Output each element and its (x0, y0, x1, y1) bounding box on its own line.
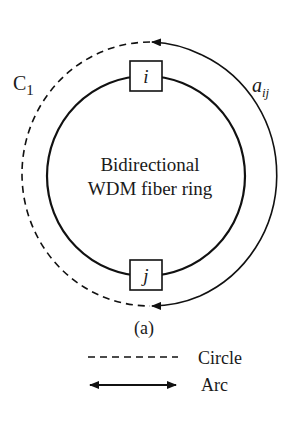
legend-item-circle: Circle (88, 348, 242, 368)
legend-item-arc: Arc (90, 375, 228, 395)
arc-label-main: a (252, 74, 262, 96)
ring-label-line2: WDM fiber ring (88, 178, 213, 199)
figure-caption: (a) (134, 318, 154, 339)
wdm-ring-diagram: i j Bidirectional WDM fiber ring C1 aij … (0, 0, 286, 429)
node-i-label: i (143, 66, 148, 87)
arc-label-subscript: ij (262, 85, 270, 100)
fiber-ring (47, 76, 245, 276)
legend-arc-label: Arc (201, 375, 228, 395)
node-j: j (130, 260, 162, 290)
node-i: i (130, 61, 162, 91)
circle-label: C1 (13, 72, 34, 98)
arc-aij-bottom-segment (152, 296, 200, 306)
arc-label: aij (252, 74, 270, 100)
arc-aij-top-segment (152, 42, 202, 55)
circle-label-main: C (13, 72, 26, 94)
circle-label-subscript: 1 (26, 82, 34, 98)
legend-circle-label: Circle (198, 348, 242, 368)
ring-label-line1: Bidirectional (100, 154, 199, 175)
